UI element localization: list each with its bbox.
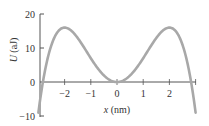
x-tick-label: 0 bbox=[115, 88, 120, 99]
y-tick-label: 0 bbox=[30, 77, 35, 88]
x-axis-label: x (nm) bbox=[103, 104, 130, 116]
x-axis-unit: (nm) bbox=[108, 104, 130, 116]
y-axis-label: U (aJ) bbox=[8, 38, 20, 63]
x-tick-label: 1 bbox=[141, 88, 146, 99]
y-axis-unit: (aJ) bbox=[8, 38, 20, 56]
y-tick-label: 20 bbox=[25, 9, 35, 20]
x-tick-label: 2 bbox=[167, 88, 172, 99]
x-tick-label: −1 bbox=[85, 88, 96, 99]
y-tick-label: 10 bbox=[25, 43, 35, 54]
y-tick-label: −10 bbox=[19, 111, 35, 122]
x-tick-label: −2 bbox=[59, 88, 70, 99]
potential-curve bbox=[38, 28, 195, 113]
potential-energy-chart: 20 10 0 −10 −2 −1 0 1 2 x (nm) U (aJ) bbox=[0, 0, 209, 126]
